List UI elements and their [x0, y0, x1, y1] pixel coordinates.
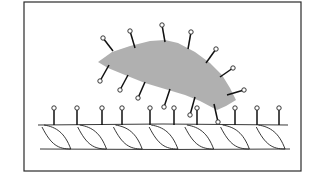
body-projection — [136, 82, 145, 100]
projection-head-icon — [128, 29, 132, 33]
projection-head-icon — [98, 79, 102, 83]
projection-head-icon — [188, 113, 192, 117]
strand-twist-lower — [113, 127, 142, 149]
strand-projection — [148, 106, 152, 125]
diagram-canvas — [0, 0, 315, 178]
strand-projection — [120, 106, 124, 125]
body-projection — [101, 36, 113, 51]
strand-projection — [233, 106, 237, 125]
strand-top-edge — [38, 124, 288, 125]
strand-projection — [172, 106, 176, 125]
projection-head-icon — [160, 23, 164, 27]
projection-head-icon — [120, 106, 124, 110]
projection-head-icon — [100, 106, 104, 110]
strand-projection — [52, 106, 56, 125]
projection-head-icon — [118, 88, 122, 92]
body-projection — [206, 47, 218, 63]
projection-head-icon — [148, 106, 152, 110]
body-projection — [162, 89, 170, 109]
projection-head-icon — [162, 105, 166, 109]
strand-projection — [277, 106, 281, 125]
body-projection — [188, 30, 193, 49]
strand-twist-lower — [221, 127, 250, 149]
body-projection — [220, 66, 235, 77]
strand-twist-lower — [78, 127, 107, 149]
strand-twist-lower — [256, 127, 285, 149]
strand-twist-lower — [42, 127, 71, 149]
strand-projections — [52, 106, 281, 125]
strand-projection — [195, 106, 199, 125]
projection-head-icon — [231, 66, 235, 70]
projection-head-icon — [52, 106, 56, 110]
projection-head-icon — [195, 106, 199, 110]
strand-projection — [255, 106, 259, 125]
projection-head-icon — [216, 120, 220, 124]
strand-projection — [75, 106, 79, 125]
strand-bottom-edge — [40, 149, 290, 150]
projection-head-icon — [75, 106, 79, 110]
strand-twist-lower — [149, 127, 178, 149]
strand-projection — [100, 106, 104, 125]
body-projection — [98, 65, 109, 83]
projection-head-icon — [189, 30, 193, 34]
projection-head-icon — [172, 106, 176, 110]
projection-head-icon — [101, 36, 105, 40]
projection-head-icon — [242, 88, 246, 92]
body-projection — [160, 23, 165, 42]
twisted-strand — [38, 124, 290, 150]
projection-head-icon — [233, 106, 237, 110]
projection-head-icon — [136, 96, 140, 100]
body-projection — [188, 97, 195, 117]
strand-twist-lower — [185, 127, 214, 149]
body-projection — [118, 75, 128, 92]
body-projection — [128, 29, 135, 48]
projection-head-icon — [277, 106, 281, 110]
projection-head-icon — [214, 47, 218, 51]
projection-head-icon — [255, 106, 259, 110]
